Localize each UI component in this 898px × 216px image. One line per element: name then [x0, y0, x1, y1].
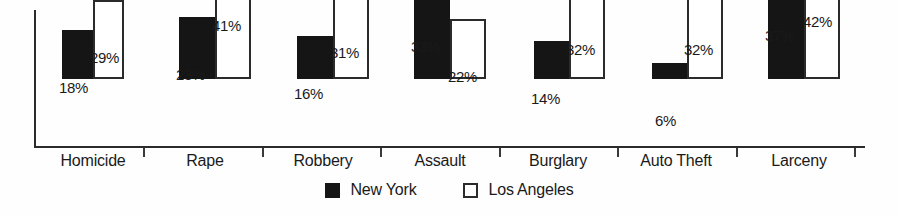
- filled-square-icon: [325, 183, 340, 198]
- x-axis-label-burglary: Burglary: [508, 152, 608, 170]
- legend-label-los-angeles: Los Angeles: [489, 181, 574, 199]
- bar-value-losangeles-larceny: 42%: [803, 13, 832, 30]
- hollow-square-icon: [463, 183, 478, 198]
- legend-item-new-york: New York: [325, 181, 417, 199]
- x-axis-label-larceny: Larceny: [745, 152, 853, 170]
- grouped-bar-chart: 18% 29% 23% 41% 16% 31% 33% 22% 14% 32% …: [0, 0, 898, 216]
- bar-value-losangeles-homicide: 29%: [90, 49, 119, 66]
- axis-tick: [380, 148, 382, 157]
- axis-tick: [499, 148, 501, 157]
- bar-value-newyork-robbery: 16%: [294, 85, 323, 102]
- bar-newyork-burglary: [534, 41, 569, 79]
- bar-losangeles-rape: [215, 0, 251, 79]
- bar-losangeles-larceny: [804, 0, 840, 79]
- bar-value-losangeles-auto-theft: 32%: [684, 41, 713, 58]
- x-axis-label-homicide: Homicide: [33, 152, 153, 170]
- bar-losangeles-homicide: [93, 0, 124, 79]
- x-axis-label-assault: Assault: [390, 152, 490, 170]
- y-axis-line: [34, 10, 36, 148]
- bar-losangeles-burglary: [569, 0, 605, 79]
- x-axis-label-auto-theft: Auto Theft: [617, 152, 735, 170]
- bar-value-newyork-larceny: 37%: [765, 27, 794, 44]
- x-axis-label-robbery: Robbery: [273, 152, 373, 170]
- bar-value-losangeles-burglary: 32%: [566, 41, 595, 58]
- x-axis-line: [34, 146, 865, 148]
- bar-losangeles-auto-theft: [687, 0, 723, 79]
- plot-area: 18% 29% 23% 41% 16% 31% 33% 22% 14% 32% …: [0, 0, 898, 148]
- legend-label-new-york: New York: [351, 181, 417, 199]
- bar-value-newyork-auto-theft: 6%: [655, 112, 676, 129]
- bar-value-losangeles-rape: 41%: [212, 17, 241, 34]
- bar-value-losangeles-robbery: 31%: [330, 44, 359, 61]
- axis-tick: [262, 148, 264, 157]
- bar-value-losangeles-assault: 22%: [448, 68, 477, 85]
- x-axis-label-rape: Rape: [155, 152, 255, 170]
- legend-item-los-angeles: Los Angeles: [463, 181, 574, 199]
- bar-value-newyork-assault: 33%: [411, 38, 440, 55]
- bar-newyork-homicide: [62, 30, 93, 79]
- axis-tick: [736, 148, 738, 157]
- chart-legend: New York Los Angeles: [0, 181, 898, 199]
- bar-value-newyork-rape: 23%: [176, 66, 205, 83]
- bar-losangeles-robbery: [333, 0, 369, 79]
- bar-newyork-auto-theft: [652, 63, 687, 79]
- bar-value-newyork-homicide: 18%: [59, 79, 88, 96]
- axis-tick: [854, 148, 856, 157]
- bar-newyork-robbery: [297, 36, 333, 79]
- bar-value-newyork-burglary: 14%: [531, 90, 560, 107]
